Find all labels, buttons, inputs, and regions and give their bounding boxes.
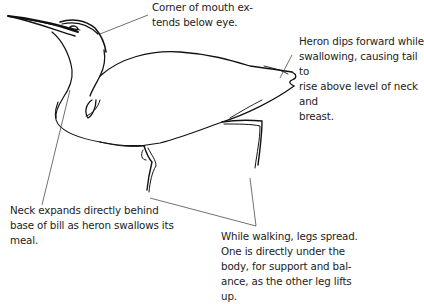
- leader-tail: [280, 55, 292, 78]
- neck-front: [52, 32, 72, 118]
- tail: [290, 72, 296, 86]
- back: [100, 52, 292, 76]
- annotation-mouth: Corner of mouth ex- tends below eye.: [152, 0, 253, 30]
- eye: [70, 26, 78, 30]
- belly: [100, 86, 294, 146]
- leader-mouth: [100, 15, 148, 34]
- leader-legs-lifted: [250, 178, 256, 226]
- annotation-neck: Neck expands directly behind base of bil…: [10, 203, 174, 248]
- annotation-tail: Heron dips forward while swallowing, cau…: [299, 34, 424, 124]
- annotation-legs: While walking, legs spread. One is direc…: [221, 229, 358, 304]
